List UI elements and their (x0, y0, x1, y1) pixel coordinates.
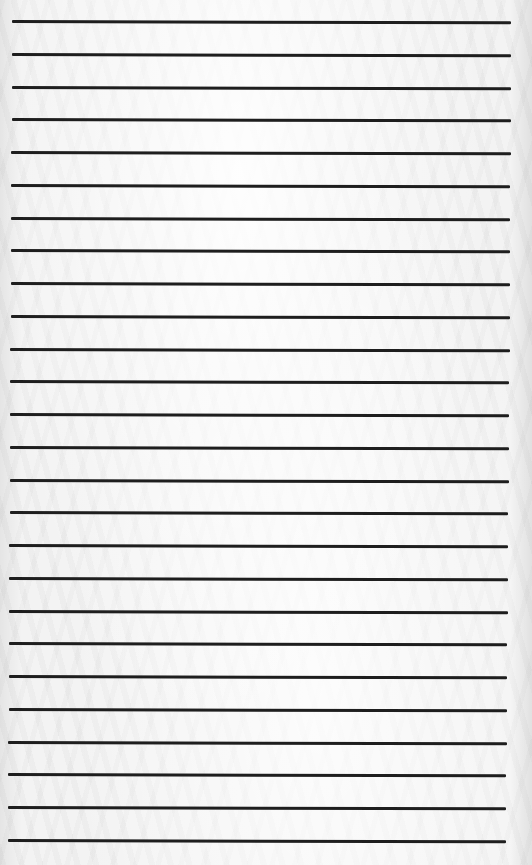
ruled-line (8, 806, 506, 810)
ruled-line (9, 610, 508, 614)
ruled-line (12, 118, 511, 122)
ruled-line (11, 217, 510, 221)
ruled-line (10, 413, 509, 417)
lined-paper (0, 0, 532, 865)
paper-right-shadow (510, 0, 532, 865)
ruled-line (8, 839, 506, 843)
ruled-line (10, 511, 508, 515)
ruled-line (11, 184, 510, 188)
ruled-line (11, 282, 510, 286)
ruled-line (9, 675, 507, 679)
paper-left-shadow (0, 0, 22, 865)
ruled-line (12, 86, 511, 90)
ruled-line (11, 315, 510, 319)
ruled-line (11, 249, 510, 253)
ruled-line (10, 380, 509, 384)
ruled-line (12, 53, 511, 57)
ruled-line (11, 151, 511, 155)
ruled-line (9, 544, 508, 548)
ruled-line (9, 642, 507, 646)
ruled-line (9, 708, 507, 712)
ruled-line (10, 446, 509, 450)
ruled-line (10, 479, 509, 483)
ruled-line (12, 20, 511, 24)
ruled-line (8, 773, 506, 777)
ruled-line (9, 577, 508, 581)
ruled-line (10, 348, 510, 352)
ruled-line (8, 741, 507, 745)
